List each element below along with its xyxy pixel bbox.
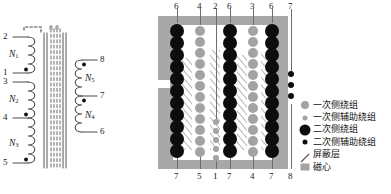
shield-dashed-box [24,27,41,34]
magnetic-core-square-icon [296,161,313,173]
winding-dot [248,147,258,157]
lead-top-4 [253,9,254,25]
winding-dot [213,137,219,143]
terminal-2-label: 2 [3,32,8,41]
figure-canvas: 2 1 3 4 5 8 7 6 N1 N2 N3 N5 N4 [0,0,391,194]
winding-dot [195,114,205,124]
lead-top-0 [177,9,178,23]
winding-dot [213,119,219,125]
terminal-5-label: 5 [3,158,8,167]
legend-label: 一次侧辅助绕组 [313,113,376,122]
top-label-5: 6 [269,2,274,11]
lead-top-3 [230,9,231,23]
secondary-winding-dot-icon [296,124,313,136]
legend-item-secondary-aux-winding: 二次侧辅助绕组 [296,136,391,148]
lead-bottom-4 [253,155,254,169]
bottom-label-5: 7 [269,172,274,181]
winding-dot [248,37,258,47]
winding-dot [195,147,205,157]
terminal-4-label: 4 [3,113,8,122]
legend-label: 二次侧绕组 [313,125,358,134]
winding-dot [248,114,258,124]
winding-n2-label: N2 [9,95,19,105]
winding-dot [213,128,219,134]
legend-label: 一次侧绕组 [313,101,358,110]
winding-n5-label: N5 [85,74,95,84]
winding-dot [248,70,258,80]
winding-dot [195,37,205,47]
winding-dot [170,144,184,158]
primary-winding-dot-icon [296,99,313,111]
winding-dot [248,125,258,135]
bottom-label-4: 4 [250,172,255,181]
winding-dot [195,125,205,135]
lead-bottom-6 [291,104,292,169]
bottom-label-2: 1 [213,172,218,181]
top-label-3: 6 [227,2,232,11]
legend-item-secondary-winding: 二次侧绕组 [296,124,391,136]
winding-dot [248,48,258,58]
bottom-label-6: 8 [288,172,293,181]
winding-dot [195,48,205,58]
lead-bottom-1 [200,155,201,169]
winding-dot [195,103,205,113]
winding-dot [248,92,258,102]
winding-dot [248,26,258,36]
shield-layer-3 [237,55,247,150]
winding-dot [195,59,205,69]
winding-dot [213,146,219,152]
bottom-label-3: 7 [227,172,232,181]
shield-layer-hatch-icon [296,149,313,161]
winding-dot [288,93,294,99]
top-label-2: 2 [213,2,218,11]
schematic-svg [0,0,150,194]
winding-n3-label: N3 [9,139,19,149]
winding-dot [195,81,205,91]
winding-dot [288,82,294,88]
winding-n1-label: N1 [9,50,19,60]
legend-item-magnetic-core: 磁心 [296,161,391,173]
winding-dot [223,144,237,158]
winding-dot [195,92,205,102]
winding-dot [248,81,258,91]
terminal-6-label: 6 [100,127,105,136]
top-label-4: 3 [250,2,255,11]
top-label-1: 4 [197,2,202,11]
transformer-winding-schematic: 2 1 3 4 5 8 7 6 N1 N2 N3 N5 N4 [0,0,150,194]
winding-dot [195,70,205,80]
legend-item-primary-winding: 一次侧绕组 [296,99,391,111]
legend-item-primary-aux-winding: 一次侧辅助绕组 [296,111,391,123]
legend-item-shield-layer: 屏蔽层 [296,149,391,161]
terminal-7-label: 7 [100,91,105,100]
legend-label: 二次侧辅助绕组 [313,138,376,147]
winding-dot [265,144,279,158]
lead-top-5 [272,9,273,23]
top-label-6: 7 [288,2,293,11]
shield-layer-2 [210,50,220,150]
winding-dot [195,136,205,146]
terminal-8-label: 8 [100,55,105,64]
winding-dot [248,136,258,146]
lead-top-6 [291,9,292,71]
winding-dot [288,71,294,77]
lead-top-2 [216,9,217,119]
winding-dot [195,26,205,36]
winding-dot [248,59,258,69]
terminal-3-label: 3 [3,77,8,86]
legend-label: 屏蔽层 [313,150,340,159]
winding-legend: 一次侧绕组 一次侧辅助绕组 二次侧绕组 二次侧辅助绕组 屏蔽层 磁心 [296,99,391,173]
winding-n4-label: N4 [85,111,95,121]
legend-label: 磁心 [313,163,331,172]
bottom-label-1: 5 [197,172,202,181]
primary-aux-winding-dot-icon [296,112,313,124]
bottom-label-0: 7 [174,172,179,181]
winding-dot [213,155,219,161]
secondary-aux-winding-dot-icon [296,136,313,148]
winding-dot [248,103,258,113]
lead-top-1 [200,9,201,25]
top-label-0: 6 [174,2,179,11]
